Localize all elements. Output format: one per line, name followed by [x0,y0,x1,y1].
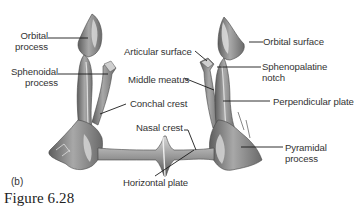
label-sphenoidal-process: Sphenoidal process [4,66,58,88]
label-pyramidal-process-line1: Pyramidal [285,142,327,153]
label-sphenopalatine-notch-line2: notch [262,72,327,83]
figure-caption: Figure 6.28 [4,190,74,207]
label-sphenopalatine-notch: Sphenopalatine notch [262,61,327,83]
label-pyramidal-process: Pyramidal process [285,142,327,164]
label-nasal-crest: Nasal crest [136,122,183,133]
label-orbital-process-line1: Orbital [12,30,48,41]
label-sphenopalatine-notch-line1: Sphenopalatine [262,61,327,72]
label-middle-meatus: Middle meatus [128,74,189,85]
label-pyramidal-process-line2: process [285,153,327,164]
label-orbital-process-line2: process [12,41,48,52]
label-orbital-process: Orbital process [12,30,48,52]
horizontal-plate [98,136,214,176]
label-conchal-crest: Conchal crest [130,98,187,109]
figure-panel: Orbital process Sphenoidal process Artic… [0,0,362,209]
left-palatine-bone [49,14,116,170]
label-sphenoidal-process-line1: Sphenoidal [4,66,58,77]
label-perpendicular-plate: Perpendicular plate [273,96,354,107]
label-articular-surface: Articular surface [124,46,192,57]
label-horizontal-plate: Horizontal plate [123,177,188,188]
label-sphenoidal-process-line2: process [4,77,58,88]
label-orbital-surface: Orbital surface [263,36,324,47]
panel-label: (b) [11,176,23,187]
